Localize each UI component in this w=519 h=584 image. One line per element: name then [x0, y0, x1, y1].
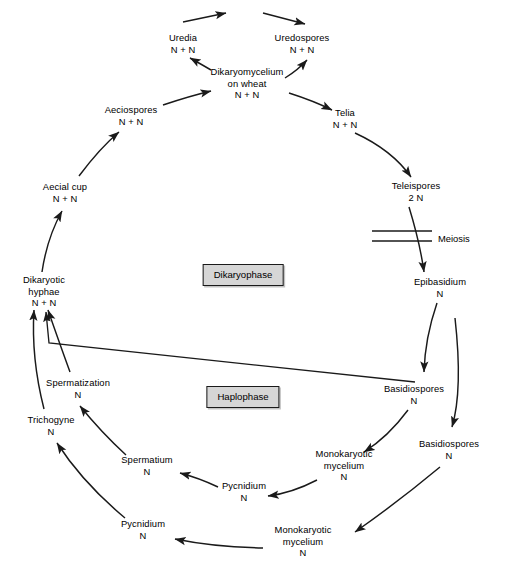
meiosis-label-text: Meiosis [438, 233, 470, 244]
node-uredia-line1: Uredia [169, 32, 197, 44]
edge-aeciospores-to-dikaryomycelium [163, 91, 211, 105]
edge-uredia-repeat [183, 13, 226, 22]
meiosis-bars [372, 231, 432, 241]
node-monokaryotic-mycelium-1-line3: N [316, 471, 373, 483]
node-basidiospores-2-line1: Basidiospores [419, 438, 479, 450]
node-pycnidium-1: Pycnidium N [222, 480, 266, 503]
node-pycnidium-1-line1: Pycnidium [222, 480, 266, 492]
node-aeciospores: Aeciospores N + N [105, 104, 158, 127]
edge-telia-to-teleispores [355, 133, 411, 177]
meiosis-label: Meiosis [438, 233, 470, 244]
node-monokaryotic-mycelium-2-line1: Monokaryotic [275, 524, 332, 536]
node-monokaryotic-mycelium-1-line2: mycelium [316, 459, 373, 471]
node-uredospores: Uredospores N + N [275, 32, 330, 55]
node-telia: Telia N + N [333, 107, 358, 130]
node-basidiospores-1-line1: Basidiospores [384, 383, 444, 395]
node-basidiospores-2-line2: N [419, 450, 479, 462]
node-dikaryomycelium-line3: N + N [211, 89, 284, 101]
edge-uredospores-out [263, 13, 305, 24]
edge-aecial-cup-to-aeciospores [79, 132, 119, 176]
node-trichogyne-line1: Trichogyne [27, 414, 74, 426]
node-monokaryotic-mycelium-1-line1: Monokaryotic [316, 448, 373, 460]
node-aecial-cup: Aecial cup N + N [43, 181, 87, 204]
node-spermatization-line1: Spermatization [46, 377, 110, 389]
node-teleispores: Teleispores 2 N [392, 180, 441, 203]
node-dikaryotic-hyphae-line1: Dikaryotic [23, 274, 65, 286]
edge-spermatium-to-spermatization [80, 406, 126, 455]
node-pycnidium-2-line2: N [121, 530, 165, 542]
node-basidiospores-1-line2: N [384, 395, 444, 407]
node-dikaryomycelium: Dikaryomycelium on wheat N + N [211, 66, 284, 101]
node-teleispores-line1: Teleispores [392, 180, 441, 192]
node-pycnidium-2: Pycnidium N [121, 518, 165, 541]
phase-box-haplophase-label: Haplophase [217, 391, 268, 402]
node-spermatium: Spermatium N [121, 454, 173, 477]
edge-epibasidium-to-basidiospores-1 [424, 303, 437, 372]
phase-box-dikaryophase-label: Dikaryophase [214, 269, 273, 280]
node-dikaryotic-hyphae-line2: hyphae [23, 285, 65, 297]
node-pycnidium-2-line1: Pycnidium [121, 518, 165, 530]
node-telia-line1: Telia [333, 107, 358, 119]
edge-epibasidium-to-basidiospores-2 [452, 318, 458, 427]
node-uredia: Uredia N + N [169, 32, 197, 55]
node-monokaryotic-mycelium-2: Monokaryotic mycelium N [275, 524, 332, 559]
edge-dikaryomycelium-to-uredia [190, 58, 211, 70]
edge-pycnidium-1-to-spermatium [180, 473, 218, 487]
edge-basidiospores-to-dikaryotic-hyphae-return [46, 312, 415, 382]
node-aeciospores-line1: Aeciospores [105, 104, 158, 116]
node-telia-line2: N + N [333, 119, 358, 131]
edge-teleispores-to-epibasidium [409, 207, 424, 272]
edge-spermatization-to-dikaryotic-hyphae [48, 310, 70, 372]
node-aecial-cup-line2: N + N [43, 193, 87, 205]
node-spermatium-line1: Spermatium [121, 454, 173, 466]
node-epibasidium: Epibasidium N [414, 276, 466, 299]
node-uredospores-line2: N + N [275, 44, 330, 56]
node-dikaryomycelium-line1: Dikaryomycelium [211, 66, 284, 78]
node-dikaryomycelium-line2: on wheat [211, 77, 284, 89]
node-epibasidium-line2: N [414, 288, 466, 300]
node-spermatization: Spermatization N [46, 377, 110, 400]
node-aecial-cup-line1: Aecial cup [43, 181, 87, 193]
rust-life-cycle-diagram: Uredia N + N Uredospores N + N Dikaryomy… [0, 0, 519, 584]
node-monokaryotic-mycelium-2-line3: N [275, 547, 332, 559]
node-pycnidium-1-line2: N [222, 492, 266, 504]
node-teleispores-line2: 2 N [392, 192, 441, 204]
phase-box-dikaryophase: Dikaryophase [203, 264, 284, 286]
edge-pycnidium-2-to-trichogyne [57, 443, 125, 518]
node-trichogyne: Trichogyne N [27, 414, 74, 437]
edge-monokaryotic-2-to-pycnidium-2 [175, 539, 263, 548]
node-trichogyne-line2: N [27, 426, 74, 438]
edge-monokaryotic-1-to-pycnidium-1 [268, 480, 317, 496]
node-basidiospores-2: Basidiospores N [419, 438, 479, 461]
node-uredospores-line1: Uredospores [275, 32, 330, 44]
phase-box-haplophase: Haplophase [206, 386, 279, 408]
node-monokaryotic-mycelium-2-line2: mycelium [275, 535, 332, 547]
edge-dikaryomycelium-to-telia [289, 93, 332, 110]
node-uredia-line2: N + N [169, 44, 197, 56]
edge-trichogyne-to-dikaryotic-hyphae [33, 310, 44, 409]
node-basidiospores-1: Basidiospores N [384, 383, 444, 406]
node-dikaryotic-hyphae: Dikaryotic hyphae N + N [23, 274, 65, 309]
node-epibasidium-line1: Epibasidium [414, 276, 466, 288]
node-monokaryotic-mycelium-1: Monokaryotic mycelium N [316, 448, 373, 483]
node-spermatization-line2: N [46, 389, 110, 401]
edge-basidiospores-1-to-monokaryotic-1 [364, 410, 408, 452]
edge-dikaryotic-hyphae-to-aecial-cup [42, 211, 62, 272]
node-dikaryotic-hyphae-line3: N + N [23, 297, 65, 309]
node-aeciospores-line2: N + N [105, 116, 158, 128]
edge-dikaryomycelium-to-uredospores [285, 60, 307, 78]
node-spermatium-line2: N [121, 466, 173, 478]
